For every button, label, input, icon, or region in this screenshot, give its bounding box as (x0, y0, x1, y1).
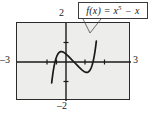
y-axis-min-label: –2 (57, 101, 67, 111)
function-callout-text: f(x) = x5 − x (86, 4, 139, 16)
function-tail: x (135, 6, 140, 17)
plot-canvas (17, 23, 131, 101)
function-callout-box: f(x) = x5 − x (78, 2, 148, 19)
plot-frame (16, 22, 130, 100)
function-arg: (x) = (89, 6, 113, 17)
x-axis-max-label: 3 (133, 55, 138, 65)
graph-figure: –3 3 2 –2 f(x) = x5 − x (0, 0, 150, 122)
y-axis-max-label: 2 (59, 8, 64, 18)
function-minus: − (122, 6, 135, 17)
x-axis-min-label: –3 (0, 55, 10, 65)
